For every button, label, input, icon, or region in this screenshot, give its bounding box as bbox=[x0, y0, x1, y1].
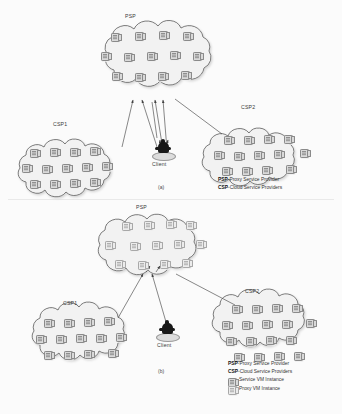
service-vm-icon bbox=[222, 166, 231, 175]
service-vm-icon bbox=[124, 52, 133, 61]
legend-abbr: CSP bbox=[228, 368, 238, 376]
service-vm-icon bbox=[50, 147, 59, 156]
legend-abbr: PSP bbox=[228, 360, 238, 368]
service-vm-icon bbox=[246, 336, 255, 345]
client-figure bbox=[152, 139, 174, 159]
figure-root: PSP CSP1 CSP2 Client (a) PSP -Proxy Serv… bbox=[0, 0, 342, 414]
service-vm-icon bbox=[64, 350, 73, 359]
service-vm-icon bbox=[286, 335, 295, 344]
service-vm-icon bbox=[226, 336, 235, 345]
service-vm-icon bbox=[147, 51, 156, 60]
cloud-label-csp2: CSP2 bbox=[245, 288, 259, 294]
service-vm-icon bbox=[90, 146, 99, 155]
proxy-vm-icon bbox=[166, 219, 175, 228]
service-vm-icon bbox=[50, 179, 59, 188]
service-vm-icon bbox=[294, 351, 303, 360]
legend-text: -Proxy Service Provider bbox=[228, 176, 279, 184]
service-vm-icon bbox=[116, 332, 125, 341]
service-vm-icon bbox=[274, 149, 283, 158]
cloud-label-psp: PSP bbox=[136, 204, 147, 210]
proxy-vm-icon bbox=[115, 259, 124, 268]
service-vm-icon bbox=[242, 320, 251, 329]
panel-caption-a: (a) bbox=[158, 184, 164, 190]
service-vm-icon bbox=[262, 165, 271, 174]
service-vm-icon bbox=[254, 150, 263, 159]
client-label: Client bbox=[152, 161, 166, 167]
legend-item: PSP -Proxy Service Provider bbox=[218, 176, 282, 184]
cloud-label-csp2: CSP2 bbox=[241, 104, 255, 110]
service-vm-icon bbox=[82, 162, 91, 171]
service-vm-icon bbox=[70, 147, 79, 156]
service-vm-icon bbox=[252, 304, 261, 313]
service-vm-swatch-icon bbox=[228, 377, 235, 384]
service-vm-icon bbox=[158, 71, 167, 80]
service-vm-icon bbox=[42, 164, 51, 173]
service-vm-icon bbox=[90, 177, 99, 186]
panel-a: PSP CSP1 CSP2 Client (a) PSP -Proxy Serv… bbox=[0, 0, 342, 200]
legend-panel-b: PSP -Proxy Service Provider CSP -Cloud S… bbox=[228, 360, 292, 393]
legend-item: CSP -Cloud Service Providers bbox=[228, 368, 292, 376]
proxy-vm-icon bbox=[130, 241, 139, 250]
proxy-vm-swatch-icon bbox=[228, 385, 235, 392]
panel-b: PSP CSP1 CSP2 Client (b) PSP -Proxy Serv… bbox=[0, 200, 342, 414]
service-vm-icon bbox=[135, 31, 144, 40]
legend-text: Proxy VM Instance bbox=[239, 385, 280, 393]
cloud-label-csp1: CSP1 bbox=[53, 121, 67, 127]
legend-text: Service VM Instance bbox=[239, 376, 284, 384]
legend-abbr: PSP bbox=[218, 176, 228, 184]
proxy-vm-icon bbox=[122, 221, 131, 230]
proxy-vm-icon bbox=[196, 239, 205, 248]
service-vm-icon bbox=[108, 348, 117, 357]
proxy-vm-icon bbox=[186, 220, 195, 229]
service-vm-icon bbox=[56, 334, 65, 343]
service-vm-icon bbox=[274, 351, 283, 360]
proxy-vm-icon bbox=[105, 240, 114, 249]
service-vm-icon bbox=[183, 31, 192, 40]
service-vm-icon bbox=[266, 335, 275, 344]
service-vm-icon bbox=[96, 333, 105, 342]
service-vm-icon bbox=[76, 333, 85, 342]
legend-item: Service VM Instance bbox=[228, 376, 292, 384]
service-vm-icon bbox=[36, 334, 45, 343]
service-vm-icon bbox=[244, 135, 253, 144]
service-vm-icon bbox=[262, 319, 271, 328]
service-vm-icon bbox=[84, 317, 93, 326]
service-vm-icon bbox=[135, 72, 144, 81]
service-vm-icon bbox=[30, 179, 39, 188]
legend-text: -Cloud Service Providers bbox=[238, 368, 292, 376]
service-vm-icon bbox=[101, 51, 110, 60]
service-vm-icon bbox=[104, 316, 113, 325]
legend-panel-a: PSP -Proxy Service Provider CSP -Cloud S… bbox=[218, 176, 282, 192]
proxy-vm-icon bbox=[152, 240, 161, 249]
legend-text: -Proxy Service Provider bbox=[238, 360, 289, 368]
proxy-vm-icon bbox=[182, 258, 191, 267]
client-figure bbox=[156, 320, 178, 340]
legend-item: CSP -Cloud Service Providers bbox=[218, 184, 282, 192]
service-vm-icon bbox=[222, 320, 231, 329]
service-vm-icon bbox=[292, 303, 301, 312]
legend-item: PSP -Proxy Service Provider bbox=[228, 360, 292, 368]
service-vm-icon bbox=[300, 148, 309, 157]
proxy-vm-icon bbox=[144, 220, 153, 229]
service-vm-icon bbox=[232, 304, 241, 313]
service-vm-icon bbox=[272, 303, 281, 312]
service-vm-icon bbox=[64, 318, 73, 327]
service-vm-icon bbox=[70, 178, 79, 187]
service-vm-icon bbox=[44, 318, 53, 327]
service-vm-icon bbox=[170, 50, 179, 59]
legend-text: -Cloud Service Providers bbox=[228, 184, 282, 192]
client-label: Client bbox=[157, 342, 171, 348]
service-vm-icon bbox=[22, 163, 31, 172]
service-vm-icon bbox=[282, 319, 291, 328]
service-vm-icon bbox=[62, 163, 71, 172]
service-vm-icon bbox=[111, 32, 120, 41]
proxy-vm-icon bbox=[160, 259, 169, 268]
proxy-vm-icon bbox=[174, 239, 183, 248]
service-vm-icon bbox=[102, 161, 111, 170]
legend-abbr: CSP bbox=[218, 184, 228, 192]
service-vm-icon bbox=[284, 134, 293, 143]
service-vm-icon bbox=[234, 151, 243, 160]
panel-caption-b: (b) bbox=[158, 368, 164, 374]
service-vm-icon bbox=[242, 166, 251, 175]
service-vm-icon bbox=[30, 148, 39, 157]
